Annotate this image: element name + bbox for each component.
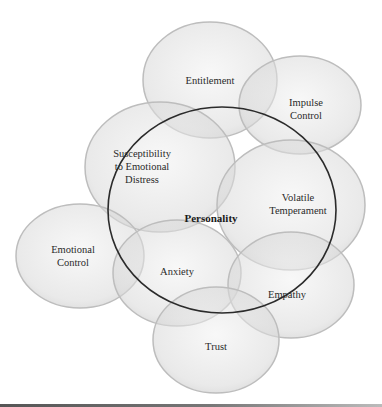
label-emotional-control-line2: Control [57, 257, 89, 268]
label-impulse-control-line2: Control [290, 110, 322, 121]
label-volatile-line2: Temperament [269, 205, 327, 216]
label-impulse-control-line1: Impulse [289, 97, 323, 108]
label-susceptibility-line3: Distress [125, 174, 159, 185]
label-emotional-control-line1: Emotional [51, 244, 95, 255]
label-anxiety: Anxiety [160, 266, 195, 277]
label-susceptibility-line1: Susceptibility [113, 148, 172, 159]
label-entitlement: Entitlement [186, 75, 235, 86]
label-susceptibility-line2: to Emotional [115, 161, 170, 172]
label-empathy: Empathy [268, 289, 307, 300]
label-volatile-line1: Volatile [282, 192, 315, 203]
label-trust: Trust [205, 341, 227, 352]
personality-venn-diagram: Entitlement Impulse Control Susceptibili… [0, 0, 382, 407]
label-personality: Personality [184, 212, 238, 224]
